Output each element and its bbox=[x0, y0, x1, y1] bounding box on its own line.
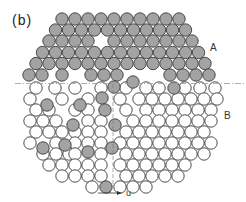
atom-grain-a bbox=[134, 13, 146, 25]
atom-grain-a bbox=[101, 24, 113, 36]
atom-grain-a bbox=[186, 57, 198, 69]
atom-grain-b bbox=[179, 115, 191, 127]
atom-grain-a bbox=[108, 35, 120, 47]
atom-grain-a bbox=[108, 57, 120, 69]
atom-grain-b bbox=[166, 137, 178, 149]
atom-grain-a bbox=[49, 24, 61, 36]
atom-grain-b bbox=[69, 148, 81, 160]
atom-grain-b bbox=[24, 115, 36, 127]
atom-grain-b bbox=[198, 93, 210, 105]
atom-grain-b bbox=[56, 159, 68, 171]
atom-grain-b bbox=[95, 115, 107, 127]
atom-grain-a bbox=[88, 46, 100, 58]
atom-grain-a bbox=[88, 24, 100, 36]
atom-grain-a bbox=[114, 46, 126, 58]
atom-grain-a bbox=[173, 35, 185, 47]
atom-grain-b bbox=[56, 170, 68, 182]
atom-grain-b bbox=[146, 126, 158, 138]
atom-grain-b bbox=[114, 93, 126, 105]
atom-grain-a bbox=[160, 35, 172, 47]
atom-grain-b bbox=[179, 159, 191, 171]
atom-grain-a bbox=[177, 69, 189, 81]
atom-grain-a bbox=[121, 13, 133, 25]
atom-grain-a bbox=[111, 69, 123, 81]
atom-grain-b bbox=[95, 170, 107, 182]
atom-grain-b bbox=[172, 170, 184, 182]
atom-grain-b bbox=[153, 137, 165, 149]
atom-grain-b bbox=[120, 148, 132, 160]
atom-grain-a bbox=[56, 13, 68, 25]
atom-grain-b bbox=[185, 93, 197, 105]
atom-grain-a bbox=[127, 46, 139, 58]
atom-grain-b bbox=[140, 137, 152, 149]
atom-grain-a bbox=[160, 57, 172, 69]
atom-grain-a-inclusion bbox=[96, 92, 108, 104]
atom-grain-a bbox=[140, 46, 152, 58]
atom-grain-a bbox=[186, 35, 198, 47]
atom-grain-a bbox=[108, 13, 120, 25]
atom-grain-a bbox=[43, 57, 55, 69]
atom-grain-a bbox=[134, 57, 146, 69]
atom-grain-b bbox=[133, 93, 145, 105]
atom-grain-b bbox=[82, 126, 94, 138]
atom-grain-a bbox=[82, 13, 94, 25]
atom-grain-a bbox=[190, 69, 202, 81]
atom-grain-a bbox=[173, 57, 185, 69]
atom-grain-b bbox=[146, 170, 158, 182]
atom-grain-a bbox=[82, 57, 94, 69]
atom-grain-b bbox=[166, 104, 178, 116]
atom-grain-a-inclusion bbox=[99, 104, 111, 116]
atom-grain-b bbox=[30, 104, 42, 116]
atom-grain-a bbox=[69, 13, 81, 25]
atom-grain-b bbox=[159, 93, 171, 105]
atom-grain-a bbox=[30, 57, 42, 69]
atom-grain-b bbox=[172, 126, 184, 138]
atom-grain-a bbox=[98, 69, 110, 81]
atom-grain-a bbox=[173, 13, 185, 25]
atom-grain-b bbox=[95, 159, 107, 171]
atom-grain-b bbox=[198, 126, 210, 138]
atom-grain-b bbox=[185, 126, 197, 138]
atom-grain-b bbox=[146, 148, 158, 160]
atom-grain-b bbox=[43, 126, 55, 138]
atom-grain-b bbox=[69, 170, 81, 182]
atom-grain-b bbox=[56, 126, 68, 138]
atom-grain-b bbox=[140, 181, 152, 193]
atom-grain-a-inclusion bbox=[108, 81, 120, 93]
atom-grain-a bbox=[140, 24, 152, 36]
atom-lattice: u bbox=[0, 0, 246, 202]
atom-grain-b bbox=[24, 93, 36, 105]
atom-grain-b bbox=[95, 126, 107, 138]
atom-grain-a bbox=[147, 57, 159, 69]
atom-grain-b bbox=[146, 93, 158, 105]
grain-b-label: B bbox=[224, 110, 231, 121]
bicrystal-diagram: (b) u A B bbox=[0, 0, 246, 202]
atom-grain-b bbox=[86, 181, 98, 193]
atom-grain-b bbox=[114, 159, 126, 171]
atom-grain-b bbox=[211, 93, 223, 105]
atom-grain-a bbox=[101, 46, 113, 58]
atom-grain-b bbox=[37, 115, 49, 127]
atom-grain-a bbox=[114, 24, 126, 36]
atom-grain-a bbox=[153, 46, 165, 58]
atom-grain-b bbox=[82, 170, 94, 182]
atom-grain-b bbox=[120, 126, 132, 138]
atom-grain-b bbox=[159, 148, 171, 160]
atom-grain-a bbox=[43, 35, 55, 47]
atom-grain-b bbox=[140, 115, 152, 127]
atom-grain-b bbox=[166, 159, 178, 171]
atom-grain-b bbox=[192, 137, 204, 149]
atom-grain-a bbox=[85, 69, 97, 81]
atom-grain-a bbox=[75, 24, 87, 36]
atom-grain-a bbox=[153, 24, 165, 36]
atom-grain-b bbox=[127, 137, 139, 149]
atom-grain-a-inclusion bbox=[82, 146, 94, 158]
atom-grain-b bbox=[159, 126, 171, 138]
atom-grain-b bbox=[82, 115, 94, 127]
atom-grain-a bbox=[23, 69, 35, 81]
atom-grain-b bbox=[166, 115, 178, 127]
atom-grain-b bbox=[95, 148, 107, 160]
atom-grain-b bbox=[153, 159, 165, 171]
atom-grain-a bbox=[147, 13, 159, 25]
atom-grain-a-inclusion bbox=[74, 99, 86, 111]
